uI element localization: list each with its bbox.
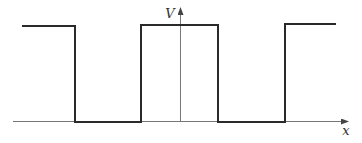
square-wave-diagram: V x <box>0 0 362 143</box>
v-axis-label: V <box>165 6 176 21</box>
x-axis-label: x <box>342 123 350 138</box>
square-wave <box>22 24 336 122</box>
